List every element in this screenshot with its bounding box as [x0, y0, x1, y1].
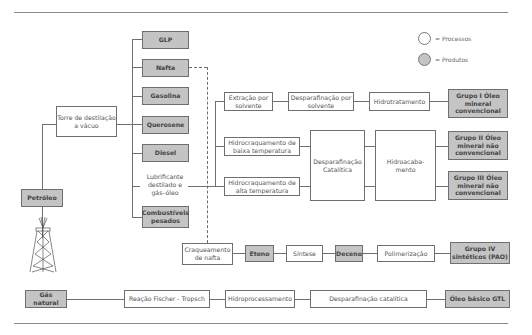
connector — [427, 299, 445, 300]
legend-process-circle — [418, 32, 431, 45]
product-nafta: Nafta — [142, 59, 189, 77]
dashed-connector — [207, 67, 208, 243]
connector — [210, 299, 225, 300]
product-eteno: Eteno — [245, 245, 274, 262]
process-desparafinacao-catalitica: Desparafinação Catalítica — [310, 130, 365, 201]
process-hidrocraqueamento-baixa: Hidrocraquamento de baixa temperatura — [224, 137, 300, 156]
process-polimerizacao: Polimerização — [377, 245, 435, 262]
connector — [436, 186, 448, 187]
connector — [132, 67, 142, 68]
legend-product-circle — [418, 53, 431, 66]
product-grupo-3: Grupo III Óleo mineral não convencional — [448, 171, 508, 200]
connector — [215, 101, 216, 187]
product-gas-natural: Gás natural — [25, 290, 67, 308]
connector — [365, 146, 375, 147]
connector — [132, 39, 142, 40]
connector — [233, 253, 245, 254]
process-hidroacabamento: Hidroacaba- mento — [375, 130, 436, 201]
process-torre: Torre de destilação a vácuo — [56, 106, 117, 137]
connector — [67, 299, 124, 300]
product-combustiveis: Combustíveis pesados — [142, 206, 189, 228]
connector — [132, 217, 142, 218]
connector — [215, 186, 224, 187]
product-querosene: Querosene — [142, 116, 189, 134]
product-grupo-4: Grupo IV sintéticos (PAO) — [450, 242, 510, 264]
connector — [273, 101, 288, 102]
product-diesel: Diesel — [142, 144, 189, 162]
product-grupo-2: Grupo II Óleo mineral não convencional — [448, 131, 508, 160]
connector — [132, 153, 142, 154]
connector — [215, 101, 224, 102]
legend-product-label: = Produtos — [435, 56, 468, 63]
process-lubrificante: Lubrificante destilado e gás–óleo — [140, 173, 190, 197]
connector — [117, 124, 133, 125]
connector — [215, 146, 224, 147]
product-oleo-gtl: Óleo básico GTL — [445, 290, 510, 308]
process-hidrocraqueamento-alta: Hidrocraquamento de alta temperatura — [224, 177, 300, 196]
product-petroleo: Petróleo — [21, 189, 63, 207]
connector — [300, 186, 310, 187]
process-desparafinacao-solvente: Desparafinação por solvente — [288, 92, 354, 111]
connector — [365, 186, 375, 187]
connector — [436, 146, 448, 147]
process-craqueamento: Craqueamento de nafta — [182, 243, 233, 265]
bottom-rule — [14, 323, 508, 324]
product-grupo-1: Grupo I Óleo mineral convencional — [448, 89, 508, 118]
product-glp: GLP — [142, 31, 189, 49]
top-rule — [14, 12, 508, 13]
connector — [354, 101, 369, 102]
process-hidrotratamento: Hidrotratamento — [369, 92, 430, 111]
dashed-connector — [189, 67, 207, 68]
connector — [323, 253, 335, 254]
connector — [274, 253, 286, 254]
connector — [42, 124, 56, 125]
connector — [300, 146, 310, 147]
process-extracao: Extração por solvente — [224, 92, 273, 111]
legend-process-label: = Processos — [435, 35, 472, 42]
connector — [132, 39, 133, 217]
process-sintese: Síntese — [286, 245, 323, 262]
connector — [132, 124, 142, 125]
connector — [435, 253, 450, 254]
connector — [430, 101, 448, 102]
process-hidroprocessamento: Hidroprocessamento — [225, 290, 295, 308]
process-desparafinacao-catalitica-gtl: Desparafinação catalítica — [310, 290, 427, 308]
product-gasolina: Gasolina — [142, 87, 189, 105]
oil-rig-icon — [26, 214, 60, 276]
connector — [295, 299, 310, 300]
process-fischer-tropsch: Reação Fischer - Tropsch — [124, 290, 210, 308]
connector — [132, 96, 142, 97]
connector — [363, 253, 377, 254]
product-deceno: Deceno — [335, 245, 363, 262]
connector — [188, 186, 216, 187]
connector — [132, 186, 140, 187]
